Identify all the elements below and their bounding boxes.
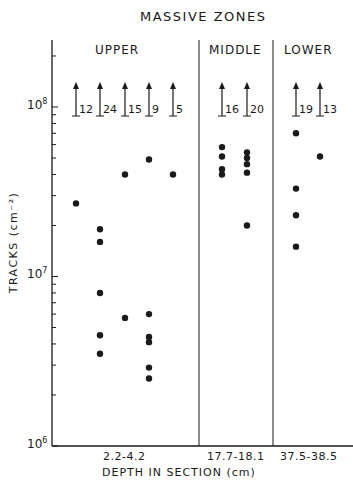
up-arrow-icon: [219, 82, 225, 89]
data-point: [244, 155, 250, 161]
data-point: [244, 149, 250, 155]
data-point: [293, 185, 299, 191]
arrow-count: 24: [103, 103, 117, 116]
data-point: [293, 243, 299, 249]
data-point: [122, 315, 128, 321]
arrow-count: 9: [152, 103, 159, 116]
up-arrow-icon: [170, 82, 176, 89]
data-point: [97, 226, 103, 232]
data-point: [244, 222, 250, 228]
data-point: [244, 169, 250, 175]
up-arrow-icon: [293, 82, 299, 89]
data-point: [97, 351, 103, 357]
data-point: [146, 375, 152, 381]
arrow-count: 13: [323, 103, 337, 116]
data-point: [317, 153, 323, 159]
data-point: [97, 290, 103, 296]
up-arrow-icon: [317, 82, 323, 89]
data-point: [97, 239, 103, 245]
up-arrow-icon: [244, 82, 250, 89]
data-point: [293, 130, 299, 136]
up-arrow-icon: [97, 82, 103, 89]
arrow-count: 16: [225, 103, 239, 116]
arrow-count: 15: [128, 103, 142, 116]
up-arrow-icon: [146, 82, 152, 89]
data-point: [122, 171, 128, 177]
data-point: [146, 156, 152, 162]
data-point: [219, 171, 225, 177]
data-point: [146, 311, 152, 317]
up-arrow-icon: [122, 82, 128, 89]
arrow-count: 5: [176, 103, 183, 116]
arrow-count: 20: [250, 103, 264, 116]
data-point: [244, 161, 250, 167]
up-arrow-icon: [73, 82, 79, 89]
data-point: [293, 212, 299, 218]
data-point: [146, 364, 152, 370]
data-point: [170, 171, 176, 177]
data-point: [146, 339, 152, 345]
data-point: [73, 200, 79, 206]
data-point: [97, 332, 103, 338]
arrow-count: 19: [299, 103, 313, 116]
plot-area: 1224159516201913: [0, 0, 353, 493]
arrow-count: 12: [79, 103, 93, 116]
data-point: [219, 153, 225, 159]
data-point: [219, 144, 225, 150]
